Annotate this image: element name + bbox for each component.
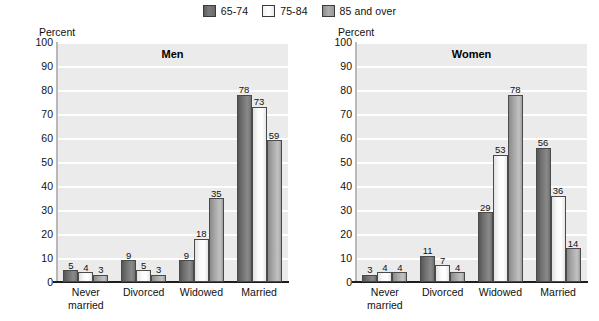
bar[interactable]: 4 [78,272,93,282]
chart-legend: 65-74 75-84 85 and over [0,2,599,20]
bar-groups-women: 3441174295378563614 [356,42,587,282]
bar[interactable]: 11 [420,256,435,282]
y-tick-label-0: 0 [7,276,53,288]
y-tick-label-80: 80 [306,84,352,96]
bar-value-label: 4 [397,263,402,273]
bar-groups-men: 54395391835787359 [57,42,288,282]
y-tick-label-60: 60 [306,132,352,144]
y-tick-label-40: 40 [7,180,53,192]
y-tick-label-0: 0 [306,276,352,288]
y-tick-label-90: 90 [306,60,352,72]
bar-value-label: 35 [211,189,222,199]
y-tick-label-10: 10 [7,252,53,264]
bar[interactable]: 5 [136,270,151,282]
bar-value-label: 78 [239,85,250,95]
bar-value-label: 14 [568,239,579,249]
y-tick-label-50: 50 [7,156,53,168]
legend-item-85-and-over: 85 and over [322,5,397,17]
legend-item-75-84: 75-84 [262,5,307,17]
bar-value-label: 59 [269,131,280,141]
x-axis-category-label: Married [529,286,587,299]
bar-value-label: 73 [254,97,265,107]
x-axis-category-label: Divorced [115,286,173,299]
x-axis-category-line: Widowed [472,286,530,299]
x-axis-categories-women: NevermarriedDivorcedWidowedMarried [356,286,587,318]
bar-group-married: 787359 [230,42,288,282]
chart-panel-men: Percent 1009080706050403020100 Men 54395… [3,26,293,318]
bar-value-label: 4 [455,263,460,273]
legend-item-65-74: 65-74 [203,5,248,17]
bar-value-label: 36 [553,186,564,196]
y-tick-label-80: 80 [7,84,53,96]
bar[interactable]: 4 [392,272,407,282]
bar-value-label: 11 [423,246,433,256]
x-axis-category-line: Widowed [173,286,231,299]
bar[interactable]: 53 [493,155,508,282]
bar-value-label: 9 [184,251,189,261]
bar-group-married: 563614 [529,42,587,282]
y-axis-ticks-men: 1009080706050403020100 [3,26,53,318]
x-axis-categories-men: NevermarriedDivorcedWidowedMarried [57,286,288,318]
bar-group-widowed: 295378 [472,42,530,282]
x-axis-category-label: Widowed [173,286,231,299]
bar-value-label: 4 [83,263,88,273]
y-tick-label-20: 20 [306,228,352,240]
bar[interactable]: 9 [121,260,136,282]
chart-panel-women: Percent 1009080706050403020100 Women 344… [302,26,592,318]
x-axis-category-line: Divorced [414,286,472,299]
y-tick-label-20: 20 [7,228,53,240]
y-tick-label-40: 40 [306,180,352,192]
y-tick-label-30: 30 [7,204,53,216]
bar[interactable]: 5 [63,270,78,282]
x-axis-category-line: Never [57,286,115,299]
bar-value-label: 18 [196,229,207,239]
legend-swatch-icon-65-74 [203,5,216,17]
y-tick-label-60: 60 [7,132,53,144]
y-tick-label-70: 70 [7,108,53,120]
bar[interactable]: 73 [252,107,267,282]
bar-group-never-married: 543 [57,42,115,282]
bar[interactable]: 78 [508,95,523,282]
x-axis-category-label: Widowed [472,286,530,299]
x-axis-category-line: Divorced [115,286,173,299]
bar-value-label: 78 [510,85,521,95]
bar-value-label: 56 [538,138,549,148]
bar-value-label: 5 [68,261,73,271]
x-axis-category-line: Married [529,286,587,299]
bar[interactable]: 56 [536,148,551,282]
bar-value-label: 5 [141,261,146,271]
y-tick-label-10: 10 [306,252,352,264]
bar[interactable]: 35 [209,198,224,282]
bar[interactable]: 4 [450,272,465,282]
bar[interactable]: 3 [362,275,377,282]
bar-value-label: 29 [480,203,491,213]
bar-value-label: 3 [98,265,103,275]
x-axis-category-label: Nevermarried [57,286,115,312]
bar-value-label: 3 [367,265,372,275]
bar[interactable]: 29 [478,212,493,282]
y-tick-label-90: 90 [7,60,53,72]
bar[interactable]: 59 [267,140,282,282]
bar-value-label: 4 [382,263,387,273]
y-tick-label-50: 50 [306,156,352,168]
bar[interactable]: 18 [194,239,209,282]
x-axis-category-line: married [356,299,414,312]
y-tick-label-100: 100 [7,36,53,48]
legend-label-85-and-over: 85 and over [340,5,397,17]
bar[interactable]: 4 [377,272,392,282]
x-axis-category-label: Nevermarried [356,286,414,312]
bar[interactable]: 36 [551,196,566,282]
y-axis-ticks-women: 1009080706050403020100 [302,26,352,318]
x-axis-category-line: Never [356,286,414,299]
bar[interactable]: 7 [435,265,450,282]
bar-group-divorced: 1174 [414,42,472,282]
y-tick-label-70: 70 [306,108,352,120]
bar[interactable]: 78 [237,95,252,282]
legend-label-65-74: 65-74 [221,5,248,17]
bar[interactable]: 14 [566,248,581,282]
y-tick-label-30: 30 [306,204,352,216]
x-axis-category-line: Married [230,286,288,299]
bar[interactable]: 3 [151,275,166,282]
bar[interactable]: 3 [93,275,108,282]
bar[interactable]: 9 [179,260,194,282]
